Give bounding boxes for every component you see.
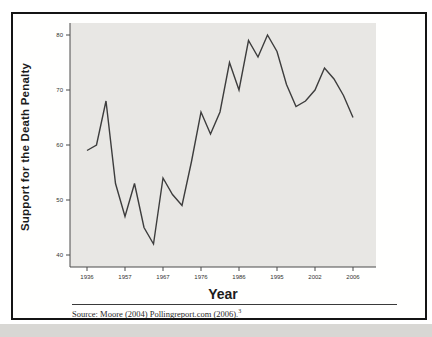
x-tick-label: 2006 [346,274,360,280]
x-tick-label: 1976 [194,274,208,280]
x-tick-label: 1995 [270,274,284,280]
x-tick-label: 1967 [156,274,170,280]
figure-frame: 4050607080193619571967197619861995200220… [11,12,427,320]
source-footnote-marker: 3 [238,308,241,314]
y-tick-label: 70 [56,87,63,93]
chart-canvas: 4050607080193619571967197619861995200220… [13,14,425,318]
page-edge-shadow [0,324,432,337]
y-tick-label: 80 [56,32,63,38]
x-axis-label: Year [70,286,376,302]
x-tick-label: 1957 [118,274,132,280]
plot-area-background [70,23,376,267]
y-axis-label: Support for the Death Penalty [19,17,35,277]
source-note: Source: Moore (2004) Pollingreport.com (… [72,309,412,319]
x-tick-label: 2002 [308,274,322,280]
y-tick-label: 50 [56,197,63,203]
y-tick-label: 40 [56,252,63,258]
source-note-text: Source: Moore (2004) Pollingreport.com (… [72,309,238,319]
divider-line [72,304,397,305]
x-tick-label: 1936 [80,274,94,280]
y-tick-label: 60 [56,142,63,148]
x-tick-label: 1986 [232,274,246,280]
